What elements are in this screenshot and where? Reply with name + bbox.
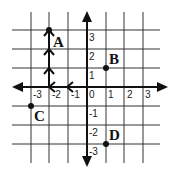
x-tick-label: -1 xyxy=(71,89,80,100)
y-tick-label: 1 xyxy=(89,70,95,81)
x-tick-label: 0 xyxy=(89,89,95,100)
x-tick-label: -3 xyxy=(33,89,42,100)
x-axis-left-arrow-icon xyxy=(12,82,23,92)
y-tick-label: -2 xyxy=(89,127,98,138)
y-tick-label: 2 xyxy=(89,51,95,62)
y-axis-up-arrow-icon xyxy=(82,11,92,22)
x-tick-label: 1 xyxy=(108,89,114,100)
point-label-d: D xyxy=(109,127,120,143)
coordinate-grid: -3 -2 -1 0 1 2 3 3 2 1 -1 -2 -3 A B C D xyxy=(0,0,170,178)
y-tick-label: -1 xyxy=(89,108,98,119)
x-tick-label: 2 xyxy=(127,89,133,100)
point-label-b: B xyxy=(109,51,119,67)
x-tick-label: -2 xyxy=(52,89,61,100)
y-tick-label: 3 xyxy=(89,32,95,43)
y-axis-down-arrow-icon xyxy=(82,156,92,167)
point-label-a: A xyxy=(53,34,64,50)
y-tick-label: -3 xyxy=(89,146,98,157)
x-tick-label: 3 xyxy=(145,89,151,100)
x-tick-labels: -3 -2 -1 0 1 2 3 xyxy=(33,89,151,100)
point-label-c: C xyxy=(34,108,45,124)
x-axis-right-arrow-icon xyxy=(157,82,168,92)
